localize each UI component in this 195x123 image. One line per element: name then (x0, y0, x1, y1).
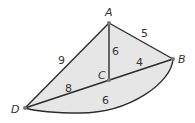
length-DC: 8 (65, 82, 72, 95)
label-B: B (178, 53, 186, 66)
length-AC: 6 (112, 45, 119, 58)
length-AD: 9 (58, 54, 65, 67)
length-arc-DB: 6 (102, 94, 109, 107)
shaded-region (25, 23, 173, 112)
point-A (107, 21, 111, 25)
point-C (107, 78, 111, 82)
label-C: C (98, 69, 106, 82)
point-D (23, 106, 27, 110)
length-CB: 4 (136, 56, 143, 69)
geometry-diagram: A B C D 9 5 6 4 8 6 (0, 0, 195, 123)
length-AB: 5 (141, 27, 148, 40)
label-A: A (104, 6, 113, 19)
label-D: D (11, 103, 19, 116)
point-B (171, 57, 175, 61)
